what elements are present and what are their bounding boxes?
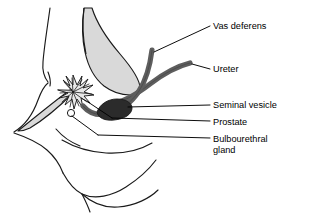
label-vas-deferens: Vas deferens	[213, 21, 266, 32]
label-prostate: Prostate	[213, 117, 247, 128]
leader-bulbourethral-horizontal	[98, 135, 210, 138]
leader-seminal-vesicle	[128, 105, 210, 107]
bulbourethral-gland	[67, 109, 74, 116]
seminal-vesicle	[97, 99, 132, 120]
leader-prostate-horizontal	[112, 118, 210, 121]
label-seminal-vesicle: Seminal vesicle	[213, 100, 277, 111]
abdominal-wall-contour	[43, 8, 50, 82]
label-bulbourethral-gland: Bulbourethral gland	[213, 134, 268, 156]
label-ureter: Ureter	[213, 64, 239, 75]
abdominal-fold	[48, 72, 50, 86]
leader-bulbourethral	[72, 116, 98, 135]
anatomy-figure: Vas deferens Ureter Seminal vesicle Pros…	[0, 0, 310, 215]
leader-vas-deferens	[154, 26, 210, 52]
thigh-contour	[63, 160, 156, 197]
leader-ureter	[192, 64, 210, 69]
urinary-bladder	[83, 8, 140, 95]
inner-thigh-line	[82, 190, 158, 207]
pubic-contour	[14, 133, 63, 173]
pelvic-floor-line	[62, 140, 152, 153]
